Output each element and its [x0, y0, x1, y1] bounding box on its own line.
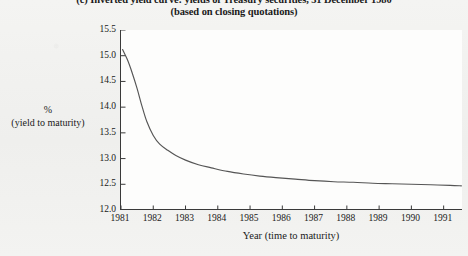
figure-caption: (c) Inverted yield curve: yields of Trea…	[0, 0, 468, 17]
y-axis-tick-marks	[121, 30, 126, 210]
x-tick-label-0: 1981	[111, 213, 130, 223]
x-tick-label-4: 1985	[240, 213, 259, 223]
x-tick-label-2: 1983	[175, 213, 194, 223]
x-axis-title: Year (time to maturity)	[120, 230, 462, 241]
x-axis-tick-labels: 1981198219831984198519861987198819891990…	[120, 213, 462, 227]
x-axis-tick-marks	[121, 206, 444, 211]
x-tick-label-9: 1990	[401, 213, 420, 223]
x-tick-label-6: 1987	[304, 213, 323, 223]
x-tick-label-10: 1991	[433, 213, 452, 223]
y-axis-tick-labels: 12.012.513.013.514.014.515.015.5	[82, 30, 116, 210]
y-tick-label-5: 14.5	[82, 76, 116, 86]
x-tick-label-1: 1982	[143, 213, 162, 223]
x-tick-label-3: 1984	[207, 213, 226, 223]
yield-curve-line	[123, 50, 462, 186]
caption-line-2: (based on closing quotations)	[0, 6, 468, 18]
y-tick-label-6: 15.0	[82, 51, 116, 61]
yield-curve-chart	[121, 30, 463, 210]
x-tick-label-7: 1988	[336, 213, 355, 223]
y-tick-label-2: 13.0	[82, 154, 116, 164]
y-tick-label-4: 14.0	[82, 102, 116, 112]
x-tick-label-8: 1989	[369, 213, 388, 223]
y-tick-label-3: 13.5	[82, 128, 116, 138]
x-tick-label-5: 1986	[272, 213, 291, 223]
y-tick-label-1: 12.5	[82, 179, 116, 189]
y-tick-label-7: 15.5	[82, 25, 116, 35]
plot-area	[120, 30, 462, 210]
